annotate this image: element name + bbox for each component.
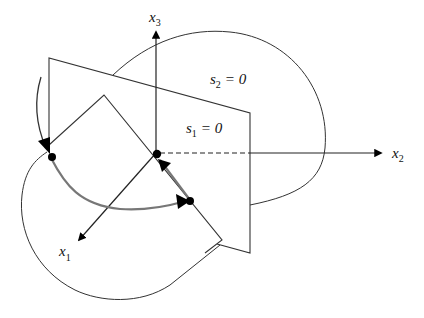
s2-surface-outline bbox=[113, 31, 325, 205]
secondary-plane bbox=[49, 95, 222, 253]
origin-marker bbox=[153, 150, 161, 158]
x2-label: x2 bbox=[391, 145, 404, 164]
x1-axis bbox=[79, 153, 156, 240]
x3-label: x3 bbox=[148, 9, 161, 28]
s1-equation-label: s1= 0 bbox=[186, 120, 223, 139]
s2-equation-label: s2= 0 bbox=[210, 71, 247, 90]
x1-label: x1 bbox=[58, 243, 71, 263]
s2-surface-outline-lower bbox=[21, 152, 220, 300]
phase-space-diagram: x3 x2 x1 s2= 0 s1= 0 bbox=[0, 0, 424, 318]
entry-point-marker bbox=[48, 153, 56, 161]
intersection-point-marker bbox=[186, 197, 194, 205]
trajectory-approach-arrow bbox=[38, 137, 50, 154]
trajectory-approach bbox=[37, 77, 46, 148]
